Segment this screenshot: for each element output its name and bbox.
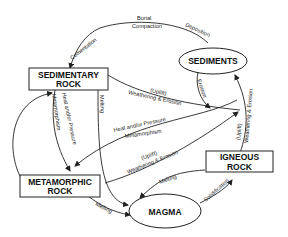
metamorphic-line2: ROCK <box>47 186 73 196</box>
label-metamorphism-down: Metamorphism <box>51 93 62 131</box>
label-heat-pressure-down: Heat and/or Pressure <box>61 92 78 145</box>
label-melting-meta: Melting <box>95 201 114 215</box>
label-ig-uplift: (Uplift) <box>235 123 242 140</box>
node-magma: MAGMA <box>129 194 201 228</box>
label-compaction: Compaction <box>132 23 162 29</box>
node-igneous-rock: IGNEOUS ROCK <box>206 151 273 172</box>
igneous-line2: ROCK <box>227 162 253 172</box>
sediments-label: SEDIMENTS <box>188 56 238 66</box>
metamorphic-line1: METAMORPHIC <box>28 177 92 187</box>
igneous-line1: IGNEOUS <box>220 152 260 162</box>
magma-label: MAGMA <box>148 207 181 217</box>
rock-cycle-diagram: SEDIMENTARY ROCK SEDIMENTS METAMORPHIC R… <box>0 0 288 237</box>
node-metamorphic-rock: METAMORPHIC ROCK <box>20 175 100 197</box>
sedimentary-line1: SEDIMENTARY <box>38 70 99 80</box>
node-sediments: SEDIMENTS <box>179 48 247 74</box>
sedimentary-line2: ROCK <box>56 79 82 89</box>
edge-meta-loop-left <box>13 93 52 180</box>
label-melting-ig: Melting <box>158 173 177 185</box>
label-burial: Burial <box>137 15 151 21</box>
node-sedimentary-rock: SEDIMENTARY ROCK <box>29 68 108 90</box>
label-ig-weathering: Weathering & Erosion <box>243 88 254 143</box>
label-solidification: Solidification <box>203 177 230 202</box>
label-melting-sed: Melting <box>99 95 106 113</box>
